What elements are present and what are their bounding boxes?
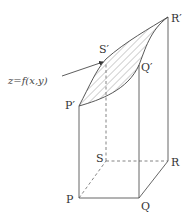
point-label-q: Q <box>141 201 150 212</box>
point-label-r-prime: R′ <box>171 13 182 24</box>
surface-patch <box>79 17 168 106</box>
vertical-edges <box>79 17 168 198</box>
point-label-p-prime: P′ <box>65 100 75 111</box>
point-label-q-prime: Q′ <box>141 62 153 73</box>
point-label-s: S <box>96 153 104 164</box>
diagram-drawing <box>0 0 192 217</box>
point-label-p: P <box>66 194 73 205</box>
prism-surface-diagram: z=f(x,y) P Q R S P′ Q′ R′ S′ <box>0 0 192 217</box>
surface-equation-label: z=f(x,y) <box>8 76 48 86</box>
point-label-r: R <box>171 157 179 168</box>
point-label-s-prime: S′ <box>99 44 109 55</box>
